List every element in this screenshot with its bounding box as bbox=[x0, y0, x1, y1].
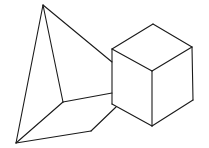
cube-edge-right_bottom-bottom bbox=[152, 100, 193, 126]
cube-edge-left_bottom-bottom bbox=[112, 104, 152, 126]
diagram-canvas bbox=[0, 0, 209, 148]
cube-edge-top-right_top bbox=[153, 24, 192, 47]
cube-edge-right_top-center bbox=[152, 47, 192, 71]
pyramid-edge-base_front-base_right_front bbox=[91, 107, 116, 131]
cube-edge-left_top-center bbox=[112, 49, 152, 71]
pyramid-edge-base_inner-base_right_inner bbox=[63, 93, 112, 102]
cube-edge-right_top-right_bottom bbox=[192, 47, 193, 100]
geometric-solids-drawing bbox=[0, 0, 209, 148]
pyramid-shape bbox=[16, 5, 116, 143]
cube-edge-top-left_top bbox=[112, 24, 153, 49]
cube-shape bbox=[112, 24, 193, 126]
